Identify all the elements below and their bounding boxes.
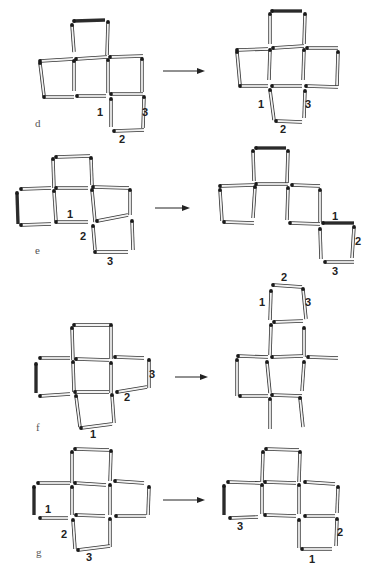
matchstick	[263, 513, 296, 517]
match-head	[70, 326, 74, 330]
match-head	[38, 516, 42, 520]
matchstick	[302, 326, 306, 357]
match-head	[302, 360, 306, 364]
match-head	[235, 50, 239, 54]
matchstick	[268, 48, 272, 80]
matchstick	[70, 23, 74, 52]
matchstick	[130, 219, 134, 250]
match-number: 1	[332, 210, 338, 222]
matchstick	[75, 94, 106, 98]
match-head	[75, 94, 79, 98]
matchstick	[236, 354, 268, 358]
match-head	[301, 287, 305, 291]
matchstick	[286, 186, 290, 220]
matchstick	[110, 393, 114, 423]
matchstick	[106, 20, 110, 55]
match-head	[335, 517, 339, 521]
match-head	[90, 188, 94, 192]
match-head	[318, 227, 322, 231]
match-head	[235, 358, 239, 362]
match-head	[130, 219, 134, 223]
match-head	[226, 480, 230, 484]
matchstick	[38, 59, 73, 63]
match-head	[306, 355, 310, 359]
matchstick	[42, 95, 74, 99]
matchstick	[70, 450, 74, 483]
matchstick	[89, 156, 93, 185]
match-head	[265, 360, 269, 364]
matchstick-figure: 132132d123123e321213f123321g	[0, 0, 381, 576]
match-head	[70, 485, 74, 489]
match-head	[269, 289, 273, 293]
match-head	[302, 326, 306, 330]
matchstick	[108, 483, 112, 515]
matchstick	[235, 48, 268, 52]
match-number: 2	[280, 123, 286, 135]
matchstick	[318, 227, 322, 259]
match-head	[115, 390, 119, 394]
matchstick	[254, 146, 286, 150]
match-head	[336, 50, 340, 54]
matchstick	[270, 9, 302, 13]
matchstick	[76, 546, 110, 552]
match-number: 3	[86, 551, 92, 563]
matchstick	[74, 394, 80, 427]
match-head	[72, 19, 76, 23]
match-head	[93, 250, 97, 254]
matchstick	[74, 57, 107, 61]
match-head	[300, 547, 304, 551]
match-head	[42, 95, 46, 99]
matchstick	[306, 355, 338, 359]
matchstick	[290, 183, 320, 187]
match-head	[253, 185, 257, 189]
matchstick	[264, 447, 299, 451]
match-number: 1	[67, 208, 73, 220]
match-number: 3	[305, 98, 311, 110]
figure-left	[32, 447, 151, 552]
matchstick	[73, 481, 106, 485]
matchstick	[71, 518, 75, 549]
arrow-icon	[175, 374, 208, 380]
match-number: 1	[45, 503, 51, 515]
match-head	[72, 59, 76, 63]
match-head	[304, 84, 308, 88]
matchstick	[72, 323, 110, 327]
matchstick	[336, 50, 340, 86]
matchstick	[238, 84, 268, 88]
match-head	[74, 513, 78, 517]
matchstick	[109, 361, 113, 393]
matchstick	[318, 188, 322, 222]
match-head	[109, 97, 113, 101]
match-head	[218, 184, 222, 188]
match-head	[303, 12, 307, 16]
matchstick	[38, 394, 70, 398]
match-head	[76, 548, 80, 552]
matchstick	[274, 119, 302, 123]
match-head	[303, 89, 307, 93]
match-head	[32, 485, 36, 489]
match-head	[297, 518, 301, 522]
match-head	[147, 358, 151, 362]
match-head	[268, 88, 272, 92]
matchstick	[112, 129, 144, 133]
match-head	[73, 390, 77, 394]
match-head	[113, 479, 117, 483]
matchstick	[222, 484, 226, 515]
panel-label: g	[36, 546, 42, 558]
panel-e	[15, 146, 356, 264]
matchstick	[298, 450, 302, 482]
match-head	[106, 20, 110, 24]
figure-left	[38, 19, 146, 133]
arrow-icon	[163, 68, 205, 74]
matchstick	[270, 355, 303, 359]
match-head	[19, 223, 23, 227]
matchstick	[269, 323, 273, 355]
match-head	[91, 224, 95, 228]
panel-label: d	[35, 117, 41, 129]
match-head	[272, 320, 276, 324]
match-head	[298, 450, 302, 454]
matchstick	[108, 55, 143, 59]
match-number: 3	[237, 520, 243, 532]
match-head	[73, 481, 77, 485]
matchstick	[336, 485, 340, 513]
